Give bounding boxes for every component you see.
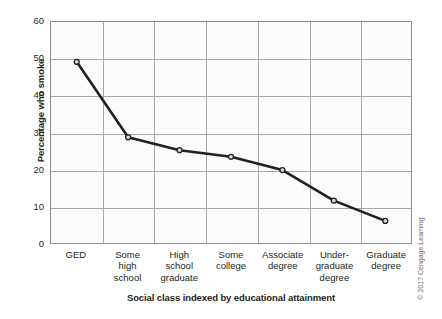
y-tick-label: 30 bbox=[18, 127, 44, 138]
x-tick-label-line: high bbox=[102, 260, 154, 271]
y-tick-label: 50 bbox=[18, 52, 44, 63]
x-tick-label: Somecollege bbox=[205, 249, 257, 272]
x-tick-label-line: school bbox=[153, 260, 205, 271]
line-series bbox=[51, 22, 411, 243]
data-point-marker bbox=[280, 168, 285, 173]
x-tick-label-line: Graduate bbox=[360, 249, 412, 260]
x-tick-label: GED bbox=[50, 249, 102, 260]
x-tick-label: Somehighschool bbox=[102, 249, 154, 283]
y-tick-label: 20 bbox=[18, 164, 44, 175]
x-tick-label-line: Associate bbox=[257, 249, 309, 260]
y-tick-label: 10 bbox=[18, 201, 44, 212]
x-tick-label-line: degree bbox=[309, 272, 361, 283]
x-tick-label-line: degree bbox=[257, 260, 309, 271]
series-line bbox=[77, 62, 386, 221]
y-tick-label: 40 bbox=[18, 89, 44, 100]
x-tick-label-line: degree bbox=[360, 260, 412, 271]
x-tick-label-line: Under- bbox=[309, 249, 361, 260]
data-point-marker bbox=[229, 154, 234, 159]
x-tick-label: Graduatedegree bbox=[360, 249, 412, 272]
data-point-marker bbox=[74, 59, 79, 64]
data-point-marker bbox=[126, 135, 131, 140]
copyright-credit: © 2017 Cengage Learning bbox=[417, 199, 424, 319]
x-tick-label: Under-graduatedegree bbox=[309, 249, 361, 283]
chart-figure: Percentage who smoke 0102030405060 GEDSo… bbox=[0, 0, 442, 319]
plot-area bbox=[50, 21, 412, 244]
x-tick-label-line: school bbox=[102, 272, 154, 283]
data-point-marker bbox=[383, 218, 388, 223]
y-tick-label: 0 bbox=[18, 238, 44, 249]
x-tick-label: Highschoolgraduate bbox=[153, 249, 205, 283]
x-tick-label-line: High bbox=[153, 249, 205, 260]
data-point-marker bbox=[331, 198, 336, 203]
x-tick-label-line: graduate bbox=[309, 260, 361, 271]
x-tick-label-line: college bbox=[205, 260, 257, 271]
y-tick-label: 60 bbox=[18, 15, 44, 26]
x-tick-label: Associatedegree bbox=[257, 249, 309, 272]
data-point-marker bbox=[177, 148, 182, 153]
x-axis-title: Social class indexed by educational atta… bbox=[50, 292, 412, 303]
x-tick-label-line: Some bbox=[102, 249, 154, 260]
x-tick-label-line: graduate bbox=[153, 272, 205, 283]
x-tick-label-line: GED bbox=[50, 249, 102, 260]
x-tick-label-line: Some bbox=[205, 249, 257, 260]
